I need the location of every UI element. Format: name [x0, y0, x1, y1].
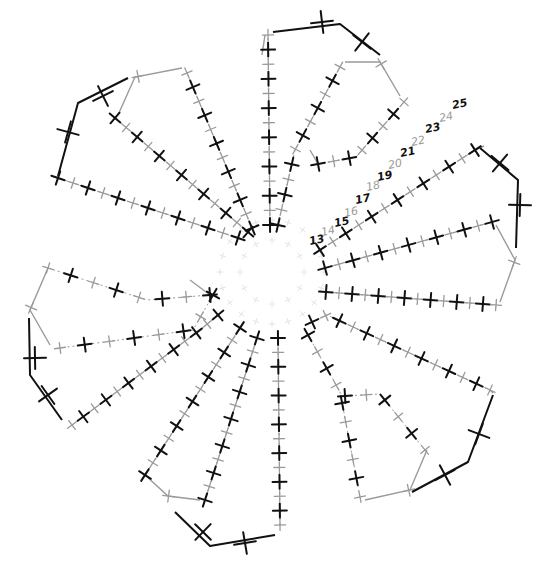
black-stitch-icon — [443, 161, 455, 173]
black-stitch-icon — [216, 439, 229, 452]
grey-stitch-icon — [241, 209, 251, 219]
grey-stitch-icon — [263, 88, 274, 99]
grey-stitch-icon — [291, 144, 301, 154]
black-stitch-icon — [469, 144, 481, 156]
grey-stitch-icon — [273, 376, 284, 387]
grey-stitch-icon — [274, 491, 285, 502]
grey-stitch-icon — [203, 320, 211, 328]
grey-stitch-icon — [283, 174, 294, 185]
grey-stitch-icon — [403, 347, 413, 357]
grey-edge-line — [345, 62, 400, 96]
grey-stitch-icon — [358, 146, 366, 154]
grey-stitch-icon — [379, 122, 387, 130]
grey-stitch-icon — [276, 204, 287, 215]
grey-edge-line — [190, 280, 210, 295]
black-stitch-icon — [198, 493, 211, 506]
black-stitch-icon — [222, 165, 235, 178]
black-stitch-icon — [171, 211, 184, 224]
grey-stitch-icon — [313, 347, 323, 357]
spoke-top-left-outer — [51, 171, 244, 244]
grey-edge-lines — [26, 35, 520, 502]
spoke-guide-line — [60, 295, 213, 348]
ghost-stitch-icon — [301, 269, 307, 275]
ghost-stitch-icon — [285, 220, 291, 226]
spoke-right-lower — [319, 285, 501, 311]
grey-stitch-icon — [227, 336, 236, 345]
spoke-lower-right-inner — [302, 329, 366, 503]
grey-edge-line — [262, 35, 265, 55]
black-edge-line — [412, 395, 493, 492]
crochet-chart: 13141516171819202122232425 — [0, 0, 540, 568]
grey-stitch-icon — [113, 387, 122, 396]
grey-stitch-icon — [164, 434, 173, 443]
grey-stitch-icon — [430, 360, 440, 370]
grey-stitch-icon — [432, 170, 441, 179]
black-edge-stitch-icon — [311, 11, 333, 33]
black-stitch-icon — [470, 377, 483, 390]
spoke-guide-line — [278, 67, 340, 225]
black-stitch-icon — [345, 287, 359, 301]
grey-stitch-icon — [328, 156, 339, 167]
black-stitch-icon — [338, 389, 352, 403]
ghost-stitch-icon — [285, 319, 291, 325]
ghost-stitch-icon — [300, 312, 305, 317]
black-stitch-icon — [154, 151, 165, 162]
black-stitch-icon — [233, 385, 246, 398]
black-stitch-icon — [297, 129, 309, 141]
grey-stitch-icon — [360, 290, 371, 301]
ghost-stitch-icon — [237, 269, 243, 275]
black-stitch-icon — [262, 130, 276, 144]
spoke-lower-right-loop — [338, 389, 429, 454]
black-stitch-icon — [306, 316, 319, 329]
black-stitch-icon — [210, 137, 223, 150]
black-stitch-icon — [443, 365, 456, 378]
grey-stitch-icon — [104, 336, 115, 347]
black-stitch-icon — [250, 331, 263, 344]
black-stitch-icon — [272, 389, 286, 403]
grey-stitch-icon — [239, 373, 249, 383]
grey-stitch-icon — [340, 416, 351, 427]
black-stitch-icon — [186, 81, 199, 94]
ghost-stitch-icon — [220, 285, 226, 291]
black-stitch-icon — [392, 194, 404, 206]
grey-edge-line — [118, 68, 182, 115]
ghost-stitch-icon — [300, 228, 305, 233]
grey-stitch-icon — [217, 152, 227, 162]
black-stitch-icon — [132, 132, 143, 143]
grey-stitch-icon — [274, 462, 285, 473]
black-stitch-icon — [360, 327, 373, 340]
black-stitch-icon — [342, 434, 356, 448]
grey-stitch-icon — [485, 385, 495, 395]
grey-stitch-icon — [389, 244, 400, 255]
grey-stitch-icon — [134, 292, 144, 302]
black-stitch-icon — [123, 377, 134, 388]
grey-stitch-icon — [218, 228, 228, 238]
black-stitch-icon — [155, 292, 169, 306]
black-stitch-icon — [379, 395, 390, 406]
black-edge-line — [175, 512, 275, 546]
black-edge-stitch-icon — [509, 194, 531, 216]
grey-stitch-icon — [188, 180, 196, 188]
grey-stitch-icon — [334, 288, 345, 299]
spoke-bottom-left-a — [198, 331, 263, 506]
grey-stitch-icon — [230, 400, 240, 410]
black-stitch-icon — [224, 412, 237, 425]
grey-stitch-icon — [247, 346, 257, 356]
grey-stitch-icon — [403, 484, 415, 496]
black-stitch-icon — [302, 329, 314, 341]
black-stitch-icon — [311, 157, 325, 171]
grey-stitch-icon — [55, 343, 66, 354]
black-stitch-icon — [278, 188, 292, 202]
black-stitch-icon — [155, 445, 167, 457]
black-stitch-icon — [406, 428, 417, 439]
grey-stitch-icon — [274, 433, 285, 444]
black-stitch-icon — [263, 189, 277, 203]
spoke-guide-line — [312, 315, 490, 390]
grey-stitch-icon — [321, 311, 331, 321]
black-edge-line — [29, 318, 62, 420]
grey-stitch-icon — [264, 176, 275, 187]
spoke-left-loop-upper — [43, 263, 217, 306]
grey-stitch-icon — [331, 380, 341, 390]
grey-stitch-icon — [457, 154, 466, 163]
black-stitch-icon — [141, 201, 154, 214]
